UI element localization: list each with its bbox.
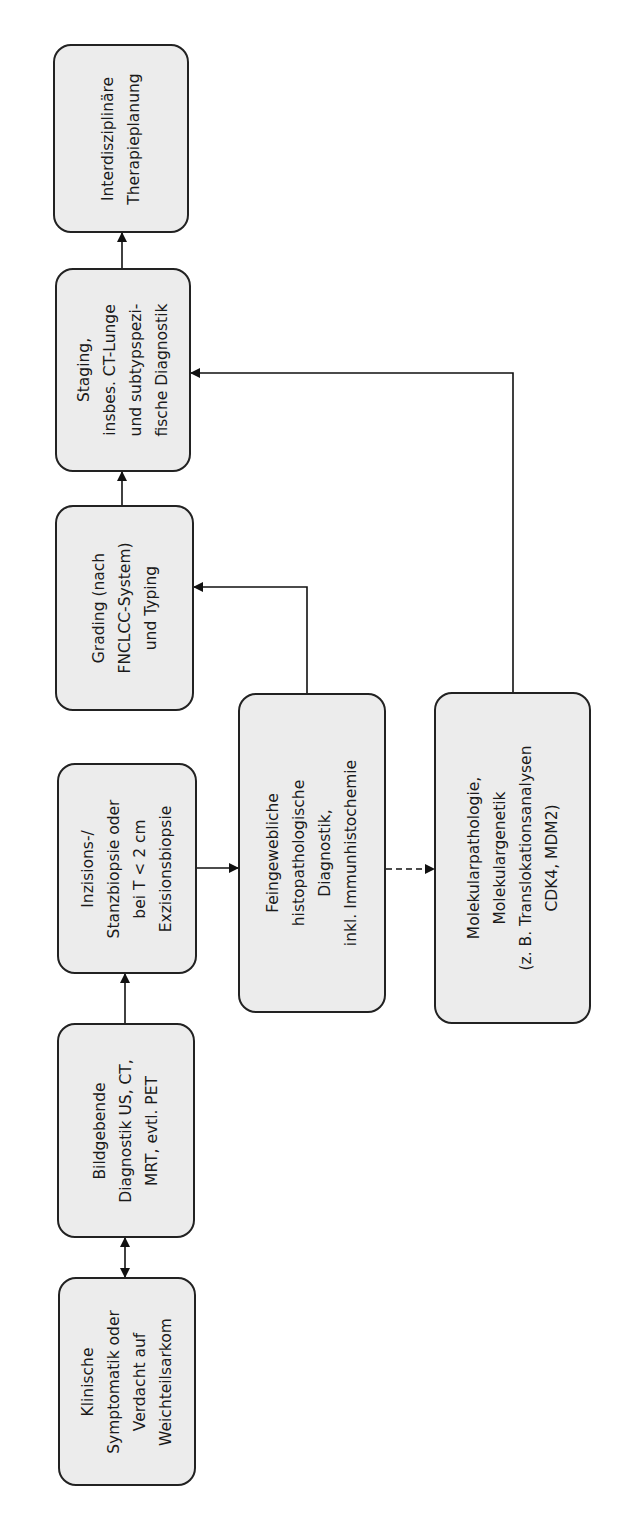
node-grading: Grading (nach FNCLCC-System) und Typing bbox=[55, 505, 194, 711]
node-label: Klinische Symptomatik oder Verdacht auf … bbox=[75, 1310, 179, 1454]
node-label: Staging, insbes. CT-Lunge und subtypspez… bbox=[71, 304, 175, 437]
node-molekularpathologie: Molekularpathologie, Molekulargenetik (z… bbox=[434, 692, 591, 1024]
edge-molekular-staging bbox=[191, 373, 513, 692]
node-label: Bildgebende Diagnostik US, CT, MRT, evtl… bbox=[87, 1059, 165, 1203]
node-label: Interdisziplinäre Therapieplanung bbox=[95, 73, 147, 204]
node-staging: Staging, insbes. CT-Lunge und subtypspez… bbox=[55, 268, 191, 472]
node-label: Molekularpathologie, Molekulargenetik (z… bbox=[461, 746, 565, 971]
node-label: Grading (nach FNCLCC-System) und Typing bbox=[86, 542, 164, 673]
node-bildgebung: Bildgebende Diagnostik US, CT, MRT, evtl… bbox=[57, 1023, 195, 1238]
node-label: Feingewebliche histopathologische Diagno… bbox=[260, 760, 364, 946]
node-biopsie: Inzisions-/ Stanzbiopsie oder bei T < 2 … bbox=[57, 763, 197, 974]
node-therapieplanung: Interdisziplinäre Therapieplanung bbox=[53, 44, 189, 233]
node-klinik: Klinische Symptomatik oder Verdacht auf … bbox=[58, 1277, 196, 1486]
flowchart-canvas: Interdisziplinäre Therapieplanung Stagin… bbox=[0, 0, 628, 1531]
node-histopathologie: Feingewebliche histopathologische Diagno… bbox=[238, 693, 386, 1013]
node-label: Inzisions-/ Stanzbiopsie oder bei T < 2 … bbox=[75, 799, 179, 938]
edge-histo-grading bbox=[194, 587, 307, 693]
